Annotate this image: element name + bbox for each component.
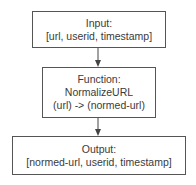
function-node-name: NormalizeURL bbox=[65, 86, 133, 99]
function-node-signature: (url) -> (normed-url) bbox=[53, 99, 145, 112]
output-node-title: Output: bbox=[82, 143, 116, 156]
input-node-fields: [url, userid, timestamp] bbox=[46, 30, 152, 43]
function-node: Function: NormalizeURL (url) -> (normed-… bbox=[42, 67, 156, 118]
function-node-title: Function: bbox=[77, 73, 120, 86]
input-node-title: Input: bbox=[86, 17, 112, 30]
output-node-fields: [normed-url, userid, timestamp] bbox=[26, 156, 171, 169]
output-node: Output: [normed-url, userid, timestamp] bbox=[12, 136, 186, 175]
input-node: Input: [url, userid, timestamp] bbox=[32, 11, 166, 48]
arrow-function-to-output bbox=[95, 118, 101, 136]
arrow-input-to-function bbox=[95, 48, 101, 67]
